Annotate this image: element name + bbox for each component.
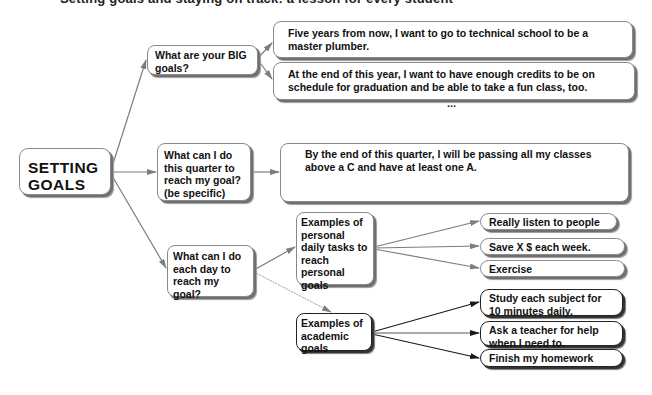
answer-end-of-year: At the end of this year, I want to have … [273,62,635,100]
answer-this-quarter: By the end of this quarter, I will be pa… [280,143,629,202]
question-big-goals: What are your BIG goals? [147,45,258,75]
subgroup-academic-goals: Examples of academic goals [296,313,372,351]
personal-item-listen: Really listen to people [480,213,617,230]
root-label-line1: SETTING [28,159,102,176]
academic-item-homework: Finish my homework [480,349,623,367]
academic-item-ask-teacher: Ask a teacher for help when I need to. [480,321,623,346]
personal-item-exercise-text: Exercise [489,263,532,275]
root-label-line2: GOALS [28,176,102,193]
personal-item-listen-text: Really listen to people [489,216,600,228]
personal-item-save-text: Save X $ each week. [489,241,591,253]
academic-item-homework-text: Finish my homework [489,352,593,364]
subgroup-personal-tasks-text: Examples of personal daily tasks to reac… [301,216,368,291]
more-indicator: ... [447,97,456,109]
question-each-day-text: What can I do each day to reach my goal? [173,250,241,300]
question-this-quarter-text: What can I do this quarter to reach my g… [164,149,241,199]
academic-item-study-text: Study each subject for 10 minutes daily. [489,292,602,317]
academic-item-ask-teacher-text: Ask a teacher for help when I need to. [489,324,599,349]
answer-five-years: Five years from now, I want to go to tec… [273,21,633,58]
answer-five-years-text: Five years from now, I want to go to tec… [288,27,588,52]
question-this-quarter: What can I do this quarter to reach my g… [157,143,251,201]
root-node-setting-goals: SETTING GOALS [19,148,111,195]
question-big-goals-text: What are your BIG goals? [155,49,247,74]
subgroup-academic-goals-text: Examples of academic goals [301,317,363,354]
subgroup-personal-tasks: Examples of personal daily tasks to reac… [296,212,374,285]
personal-item-exercise: Exercise [480,260,625,277]
academic-item-study: Study each subject for 10 minutes daily. [480,289,623,316]
answer-end-of-year-text: At the end of this year, I want to have … [288,68,595,93]
answer-this-quarter-text: By the end of this quarter, I will be pa… [305,148,592,173]
question-each-day: What can I do each day to reach my goal? [167,245,254,297]
personal-item-save: Save X $ each week. [480,238,625,255]
